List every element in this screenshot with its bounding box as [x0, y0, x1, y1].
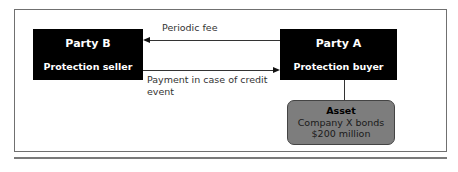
party-a-name: Party A [316, 37, 361, 50]
periodic-fee-label: Periodic fee [162, 22, 218, 34]
payment-label: Payment in case of credit event [147, 74, 297, 98]
payment-line [143, 70, 273, 71]
asset-title: Asset [326, 105, 356, 117]
bottom-rule [14, 157, 447, 159]
arrow-right-icon [273, 67, 280, 73]
party-a-box: Party A Protection buyer [280, 29, 397, 80]
party-b-role: Protection seller [44, 61, 133, 72]
periodic-fee-line [150, 40, 280, 41]
asset-amount: $200 million [312, 128, 371, 140]
asset-description: Company X bonds [298, 117, 385, 129]
arrow-left-icon [143, 37, 150, 43]
asset-box: Asset Company X bonds $200 million [287, 100, 395, 145]
party-a-role: Protection buyer [293, 61, 383, 72]
party-b-box: Party B Protection seller [33, 29, 143, 80]
party-b-name: Party B [65, 37, 110, 50]
diagram-canvas: Party B Protection seller Party A Protec… [0, 0, 458, 172]
asset-connector-line [344, 80, 345, 100]
